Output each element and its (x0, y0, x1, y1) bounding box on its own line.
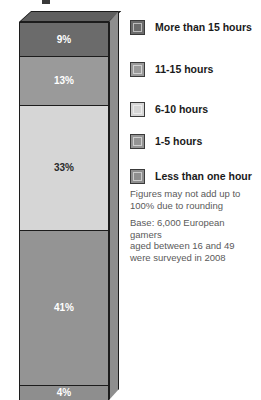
legend-swatch-icon (130, 134, 145, 149)
bar-segment-more-than-15-hours[interactable]: 9% (20, 23, 108, 57)
base-note-line-2: aged between 16 and 49 (130, 240, 235, 251)
legend-item-label: More than 15 hours (155, 22, 252, 33)
legend-swatch-icon (130, 102, 145, 117)
legend-swatch-icon (130, 169, 145, 184)
segment-value-label: 33% (54, 163, 74, 173)
segment-value-label: 9% (57, 35, 71, 45)
legend-item-label: 1-5 hours (155, 136, 202, 147)
legend-item-1-5-hours[interactable]: 1-5 hours (130, 133, 202, 149)
bar-3d-side-face (109, 11, 119, 400)
rounding-note-line-1: Figures may not add up to (130, 188, 240, 199)
bar-segment-less-than-one-hour[interactable]: 4% (20, 386, 108, 400)
bar-segment-1-5-hours[interactable]: 41% (20, 231, 108, 386)
legend-item-label: 11-15 hours (155, 64, 213, 75)
bar-front-face: 9% 13% 33% 41% 4% (19, 22, 109, 400)
bar-segment-6-10-hours[interactable]: 33% (20, 106, 108, 231)
legend-item-6-10-hours[interactable]: 6-10 hours (130, 101, 208, 117)
legend-swatch-icon (130, 20, 145, 35)
stacked-bar-chart: 9% 13% 33% 41% 4% (0, 0, 130, 400)
segment-value-label: 41% (54, 303, 74, 313)
cropped-title-artifact (42, 0, 50, 4)
segment-value-label: 4% (57, 388, 71, 398)
legend-item-less-than-one-hour[interactable]: Less than one hour (130, 168, 252, 184)
bar-3d-top-face (19, 11, 121, 22)
base-note-line-3: were surveyed in 2008 (130, 252, 226, 263)
bar-segment-11-15-hours[interactable]: 13% (20, 57, 108, 106)
segment-value-label: 13% (54, 76, 74, 86)
rounding-note-line-2: 100% due to rounding (130, 200, 223, 211)
base-note-line-1: Base: 6,000 European gamers (130, 217, 225, 240)
legend-item-label: Less than one hour (155, 171, 252, 182)
rounding-note: Figures may not add up to 100% due to ro… (130, 188, 258, 211)
legend-swatch-icon (130, 62, 145, 77)
legend-item-more-than-15-hours[interactable]: More than 15 hours (130, 19, 252, 35)
legend-item-11-15-hours[interactable]: 11-15 hours (130, 61, 213, 77)
legend-item-label: 6-10 hours (155, 104, 208, 115)
chart-footnotes: Figures may not add up to 100% due to ro… (130, 188, 258, 263)
base-note: Base: 6,000 European gamers aged between… (130, 217, 258, 263)
